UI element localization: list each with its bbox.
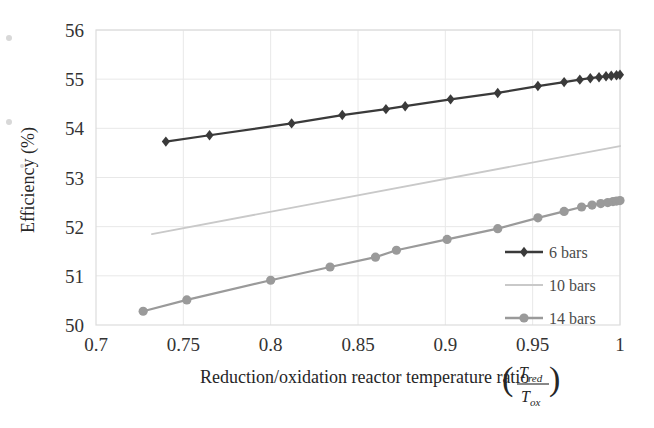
x-tick-label: 0.95 (516, 334, 549, 355)
x-tick-label: 1 (615, 334, 625, 355)
legend-item-label: 14 bars (549, 310, 596, 327)
x-tick-label: 0.8 (259, 334, 283, 355)
data-point-marker (139, 307, 148, 316)
y-tick-label: 52 (65, 217, 84, 238)
y-tick-label: 53 (65, 168, 84, 189)
y-tick-label: 50 (65, 315, 84, 336)
data-point-marker (442, 235, 451, 244)
data-point-marker (615, 196, 624, 205)
chart-figure: 50515253545556 0.70.750.80.850.90.951 Ef… (0, 0, 654, 428)
y-tick-label: 55 (65, 69, 84, 90)
fraction-right-paren: ) (549, 360, 560, 398)
x-tick-label: 0.85 (341, 334, 374, 355)
plot-area (96, 30, 625, 325)
y-tick-label: 51 (65, 266, 84, 287)
x-tick-label: 0.7 (84, 334, 108, 355)
data-point-marker (560, 207, 569, 216)
fraction-numerator-subscript: red (528, 372, 543, 384)
x-tick-label: 0.75 (167, 334, 200, 355)
y-axis-title: Efficiency (%) (18, 127, 39, 233)
data-point-marker (266, 276, 275, 285)
legend-item-label: 10 bars (549, 277, 596, 294)
data-point-marker (533, 213, 542, 222)
efficiency-vs-temperature-ratio-chart: 50515253545556 0.70.750.80.850.90.951 Ef… (0, 0, 654, 428)
y-axis-title-text: Efficiency (%) (18, 127, 39, 233)
data-point-marker (493, 224, 502, 233)
x-tick-label: 0.9 (433, 334, 457, 355)
data-point-marker (182, 295, 191, 304)
fraction-denominator-subscript: ox (530, 396, 541, 408)
legend-marker (519, 313, 528, 322)
data-point-marker (325, 262, 334, 271)
y-tick-label: 54 (65, 118, 85, 139)
data-point-marker (587, 200, 596, 209)
y-tick-label: 56 (65, 20, 84, 41)
fraction-left-paren: ( (502, 360, 513, 398)
data-point-marker (577, 202, 586, 211)
data-point-marker (392, 246, 401, 255)
data-point-marker (371, 253, 380, 262)
x-axis-title-text: Reduction/oxidation reactor temperature … (200, 367, 529, 387)
legend-item-label: 6 bars (549, 244, 588, 261)
